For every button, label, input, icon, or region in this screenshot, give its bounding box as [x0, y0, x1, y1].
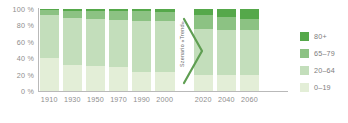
population-age-structure-chart: 100 % 80 % 60 % 40 % 20 % 0 % Szenario «… — [0, 0, 348, 123]
bar-segment — [155, 72, 175, 91]
bar-segment — [240, 9, 260, 19]
legend-swatch-icon — [300, 32, 309, 41]
bar-segment — [240, 19, 260, 30]
bar-1990 — [132, 9, 152, 91]
bar-segment — [40, 15, 60, 58]
bar-segment — [194, 9, 214, 15]
legend-label: 20–64 — [314, 66, 335, 75]
bar-segment — [109, 9, 129, 11]
bar-segment — [194, 29, 214, 75]
legend-label: 0–19 — [314, 83, 331, 92]
x-axis-tick: 1930 — [64, 95, 81, 104]
x-axis-tick: 1950 — [87, 95, 104, 104]
bar-segment — [217, 9, 237, 17]
legend-item: 20–64 — [300, 62, 348, 78]
y-axis-tick: 60 % — [17, 37, 34, 46]
legend-swatch-icon — [300, 49, 309, 58]
bar-segment — [109, 11, 129, 20]
x-axis-tick: 1910 — [41, 95, 58, 104]
bar-segment — [132, 72, 152, 91]
bar-segment — [40, 10, 60, 15]
chart-legend: 80+65–7920–640–19 — [300, 28, 348, 96]
bar-segment — [86, 9, 106, 11]
scenario-divider-label: Szenario «Trend» — [179, 21, 186, 67]
bar-segment — [194, 75, 214, 91]
bar-segment — [155, 21, 175, 72]
bar-segment — [132, 9, 152, 11]
bar-segment — [240, 75, 260, 91]
legend-item: 80+ — [300, 28, 348, 44]
bar-segment — [155, 12, 175, 21]
legend-swatch-icon — [300, 83, 309, 92]
bar-segment — [217, 17, 237, 29]
x-axis-tick: 2060 — [241, 95, 258, 104]
bar-2000 — [155, 9, 175, 91]
bar-segment — [132, 11, 152, 21]
x-axis-tick: 1990 — [133, 95, 150, 104]
x-axis-tick: 2020 — [195, 95, 212, 104]
bar-segment — [109, 20, 129, 68]
bar-segment — [86, 11, 106, 19]
y-axis-tick: 40 % — [17, 54, 34, 63]
bar-segment — [217, 30, 237, 75]
bar-1930 — [63, 9, 83, 91]
bar-segment — [86, 19, 106, 67]
bar-2040 — [217, 9, 237, 91]
bar-segment — [132, 21, 152, 72]
bar-segment — [194, 15, 214, 29]
bar-2060 — [240, 9, 260, 91]
bar-1970 — [109, 9, 129, 91]
bar-segment — [63, 11, 83, 18]
y-axis-tick: 100 % — [13, 5, 34, 14]
x-axis-line — [38, 91, 288, 92]
bar-2020 — [194, 9, 214, 91]
bar-segment — [155, 9, 175, 12]
bar-1910 — [40, 9, 60, 91]
plot-area: Szenario «Trend» — [38, 9, 287, 91]
y-axis-tick: 80 % — [17, 21, 34, 30]
bar-segment — [40, 58, 60, 91]
bar-segment — [63, 65, 83, 91]
bar-segment — [240, 30, 260, 75]
legend-item: 65–79 — [300, 45, 348, 61]
x-axis-tick: 2000 — [156, 95, 173, 104]
bar-segment — [86, 66, 106, 91]
legend-label: 65–79 — [314, 49, 335, 58]
legend-label: 80+ — [314, 32, 327, 41]
y-axis-tick: 20 % — [17, 70, 34, 79]
legend-item: 0–19 — [300, 79, 348, 95]
y-axis-labels: 100 % 80 % 60 % 40 % 20 % 0 % — [0, 9, 36, 91]
x-axis-tick: 2040 — [218, 95, 235, 104]
bar-segment — [217, 75, 237, 91]
bar-1950 — [86, 9, 106, 91]
x-axis-labels: 191019301950197019902000202020402060 — [0, 95, 348, 109]
bar-segment — [40, 9, 60, 10]
bar-segment — [63, 18, 83, 65]
bar-segment — [63, 9, 83, 11]
legend-swatch-icon — [300, 66, 309, 75]
bar-segment — [109, 67, 129, 91]
x-axis-tick: 1970 — [110, 95, 127, 104]
